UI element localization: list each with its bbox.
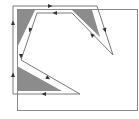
arrow-icon [42,92,47,96]
shaded-regions [17,10,100,91]
arrow-icon [11,21,15,26]
bottom-left-triangle [17,66,62,91]
arrow-icon [53,11,58,15]
path-diagram [0,0,139,119]
arrow-icon [48,4,53,8]
bounding-box [18,10,138,111]
arrow-icon [11,73,15,78]
top-right-triangle [72,10,100,37]
